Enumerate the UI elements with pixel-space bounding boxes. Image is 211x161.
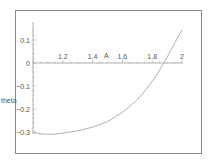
y-tick-label: −0.3: [16, 129, 30, 136]
ticks: [33, 31, 182, 132]
x-tick-label: 1.8: [147, 53, 157, 60]
y-tick-label: −0.2: [16, 106, 30, 113]
x-tick-labels: 1.21.41.61.82: [58, 53, 184, 60]
y-tick-label: 0.1: [20, 37, 30, 44]
y-tick-label: 0: [26, 60, 30, 67]
axes: [33, 22, 183, 134]
x-tick-label: 1.2: [58, 53, 68, 60]
y-axis-label: theta: [1, 97, 17, 104]
plot-frame: [16, 11, 202, 154]
theta-curve: [33, 30, 182, 135]
y-tick-label: −0.1: [16, 83, 30, 90]
x-axis-label: A: [104, 52, 109, 59]
x-tick-label: 2: [180, 53, 184, 60]
y-tick-labels: 0.10−0.1−0.2−0.3: [16, 37, 30, 136]
plot-area: 1.21.41.61.82 0.10−0.1−0.2−0.3 A theta: [0, 0, 211, 161]
x-tick-label: 1.4: [88, 53, 98, 60]
x-tick-label: 1.6: [118, 53, 128, 60]
